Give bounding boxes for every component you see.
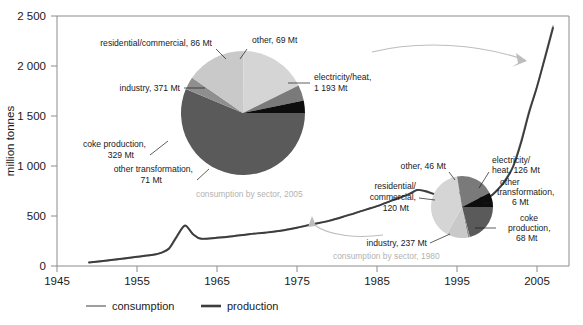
y-tick-label-1000: 1 000: [17, 160, 46, 172]
pie-1980-label-electricity-line2: heat, 126 Mt: [492, 165, 540, 175]
pie-1980-caption: consumption by sector, 1980: [333, 251, 440, 261]
arrowhead-to-1980-point: [308, 216, 316, 227]
y-tick-label-0: 0: [40, 260, 46, 272]
x-tick-label-1975: 1975: [284, 275, 310, 287]
y-axis-title: million tonnes: [4, 106, 16, 177]
pie-2005-label-other: other, 69 Mt: [252, 35, 298, 45]
pie-1980-label-industry: industry, 237 Mt: [367, 238, 428, 248]
pie-1980-label-othertrans-line3: 6 Mt: [512, 197, 529, 207]
chart-canvas: 2 500 2 000 1 500 1 000 500 0 million to…: [0, 0, 583, 325]
pie-2005-label-electricity-line1: electricity/heat,: [314, 72, 371, 82]
pie-2005-label-industry: industry, 371 Mt: [120, 83, 181, 93]
x-tick-label-1985: 1985: [364, 275, 390, 287]
leader-coke-2005: [150, 141, 168, 155]
pie-1980-label-residential-line1: residential/: [374, 181, 416, 191]
y-axis: 2 500 2 000 1 500 1 000 500 0 million to…: [4, 10, 57, 272]
pie-2005-label-othertrans-line1: other transformation,: [114, 164, 193, 174]
x-tick-label-1955: 1955: [124, 275, 150, 287]
x-tick-label-1965: 1965: [204, 275, 230, 287]
arrowhead-to-2005-rise: [512, 53, 527, 67]
pie-2005-label-coke-line1: coke production,: [83, 139, 146, 149]
x-tick-label-1995: 1995: [444, 275, 470, 287]
pie-1980-label-coke-line3: 68 Mt: [516, 233, 538, 243]
pie-1980-label-coke-line2: production,: [508, 223, 551, 233]
pie-1980-label-electricity-line1: electricity/: [492, 155, 531, 165]
leader-othertrans-2005: [197, 169, 209, 180]
x-tick-label-2005: 2005: [524, 275, 550, 287]
y-tick-label-500: 500: [27, 210, 46, 222]
pie-1980-label-other: other, 46 Mt: [401, 161, 447, 171]
pie-chart-1980: [431, 176, 493, 238]
arrow-to-1980-point: [313, 224, 383, 236]
x-tick-label-1945: 1945: [44, 275, 70, 287]
pie-1980-label-residential-line3: 120 Mt: [383, 203, 410, 213]
pie-1980-label-othertrans-line2: transformation,: [497, 187, 554, 197]
pie-1980-label-coke-line1: coke: [520, 213, 538, 223]
pie-1980-label-residential-line2: commercial,: [370, 192, 416, 202]
pie-2005-label-coke-line2: 329 Mt: [108, 150, 135, 160]
pie-2005-label-residential: residential/commercial, 86 Mt: [100, 38, 212, 48]
pie-chart-2005: [181, 51, 305, 175]
y-tick-label-1500: 1 500: [17, 110, 46, 122]
pie-1980-label-othertrans-line1: other: [500, 177, 520, 187]
y-tick-label-2500: 2 500: [17, 10, 46, 22]
legend-label-consumption: consumption: [112, 300, 174, 312]
pie-2005-label-electricity-line2: 1 193 Mt: [314, 83, 348, 93]
chart-figure: 2 500 2 000 1 500 1 000 500 0 million to…: [0, 0, 583, 325]
y-tick-label-2000: 2 000: [17, 60, 46, 72]
arrow-to-2005-rise: [372, 45, 525, 60]
pie-2005-label-othertrans-line2: 71 Mt: [141, 175, 163, 185]
chart-legend: consumption production: [86, 300, 278, 312]
leader-industry-1980: [430, 234, 450, 243]
x-axis: 1945 1955 1965 1975 1985 1995 2005: [44, 266, 550, 287]
legend-label-production: production: [227, 300, 278, 312]
pie-2005-caption: consumption by sector, 2005: [196, 189, 303, 199]
